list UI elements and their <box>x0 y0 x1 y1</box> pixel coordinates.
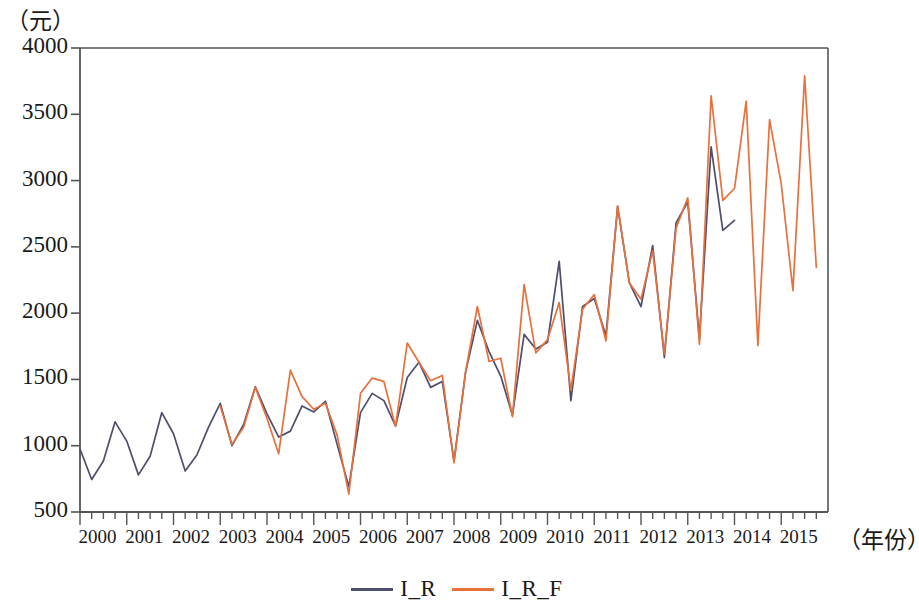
legend-label: I_R <box>400 576 436 602</box>
series-line-i_r_f <box>220 76 816 494</box>
legend-item-i_r_f: I_R_F <box>452 576 562 602</box>
chart-legend: I_RI_R_F <box>0 576 914 602</box>
legend-item-i_r: I_R <box>351 576 436 602</box>
series-line-i_r <box>80 147 735 487</box>
legend-label: I_R_F <box>501 576 562 602</box>
legend-line-swatch <box>452 588 494 591</box>
legend-line-swatch <box>351 588 393 591</box>
